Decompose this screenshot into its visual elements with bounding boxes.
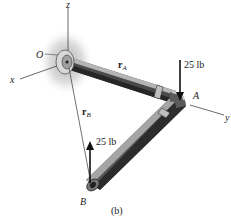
support-flange bbox=[56, 50, 74, 74]
rB-label: rB bbox=[82, 106, 91, 119]
force-A-label: 25 lb bbox=[184, 59, 204, 70]
pipe-assembly-diagram: z x y O A B rA rB 25 lb 25 lb (b) bbox=[0, 0, 231, 218]
y-axis bbox=[190, 105, 224, 115]
rA-label: rA bbox=[118, 59, 127, 72]
z-axis-label: z bbox=[65, 0, 70, 10]
force-B-label: 25 lb bbox=[96, 136, 116, 147]
origin-label: O bbox=[36, 49, 43, 60]
figure-caption: (b) bbox=[111, 205, 123, 217]
y-axis-label: y bbox=[224, 112, 230, 123]
x-axis-label: x bbox=[9, 74, 15, 85]
point-B-label: B bbox=[80, 196, 86, 207]
point-A-label: A bbox=[192, 90, 200, 101]
